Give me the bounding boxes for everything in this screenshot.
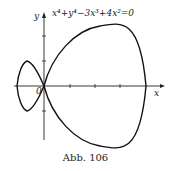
y-axis-label: y	[34, 11, 39, 21]
x-axis-arrow-icon	[160, 84, 165, 88]
y-axis-arrow-icon	[42, 12, 46, 18]
figure: x⁴+y⁴−3x³+4x²=0 y x 0 Abb. 106	[0, 0, 171, 171]
curve-plot	[0, 0, 171, 171]
equation-label: x⁴+y⁴−3x³+4x²=0	[52, 8, 134, 18]
figure-caption: Abb. 106	[0, 152, 171, 163]
axis-ticks	[42, 36, 120, 111]
x-axis-label: x	[154, 88, 159, 98]
origin-label: 0	[36, 86, 42, 96]
